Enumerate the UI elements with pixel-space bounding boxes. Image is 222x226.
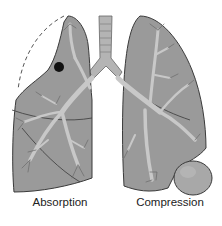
label-compression: Compression (128, 196, 212, 208)
trachea (89, 16, 122, 78)
right-lung-compression (118, 16, 212, 195)
compressing-mass (174, 161, 212, 195)
label-absorption: Absorption (20, 196, 100, 208)
lung-diagram (0, 0, 222, 226)
obstruction-plug (54, 62, 64, 72)
left-lung-absorption (12, 16, 92, 192)
